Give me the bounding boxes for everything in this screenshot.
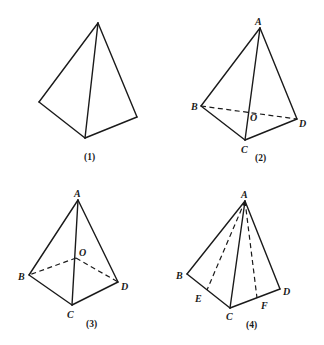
vertex-label-d: D	[120, 281, 128, 292]
point-label-f: F	[260, 300, 268, 311]
point-label-e: E	[194, 293, 202, 304]
tetrahedron-figures: (1) A B C D O (2) A B C D O (3)	[0, 0, 324, 345]
figure-2-caption: (2)	[255, 153, 266, 164]
figure-1-caption: (1)	[84, 152, 95, 163]
vertex-label-c: C	[226, 311, 233, 322]
figure-1-tetrahedron: (1)	[39, 23, 137, 163]
vertex-label-b: B	[17, 271, 25, 282]
vertex-label-a: A	[240, 189, 248, 200]
vertex-label-a: A	[254, 16, 262, 27]
vertex-label-b: B	[190, 101, 198, 112]
vertex-label-a: A	[73, 188, 81, 199]
point-label-o: O	[250, 112, 257, 123]
vertex-label-b: B	[175, 270, 183, 281]
vertex-label-c: C	[241, 144, 248, 155]
vertex-label-d: D	[282, 286, 290, 297]
figure-3-caption: (3)	[86, 319, 97, 330]
point-label-o: O	[79, 247, 86, 258]
figure-2-tetrahedron: A B C D O (2)	[190, 16, 306, 164]
figure-3-tetrahedron: A B C D O (3)	[17, 188, 128, 330]
vertex-label-c: C	[67, 309, 74, 320]
figure-4-tetrahedron: A B C D E F (4)	[175, 189, 290, 331]
figure-4-caption: (4)	[246, 320, 257, 331]
vertex-label-d: D	[298, 118, 306, 129]
